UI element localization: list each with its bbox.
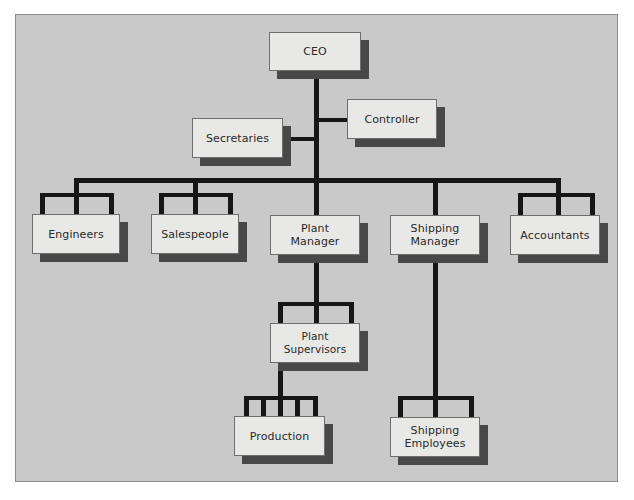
node-accountants: Accountants	[510, 215, 600, 255]
connector-controller	[314, 118, 348, 122]
prong	[518, 193, 523, 215]
prong	[40, 193, 45, 214]
stem-plant-supervisors	[314, 255, 319, 323]
stem-shipping-employees	[433, 255, 438, 417]
node-secretaries: Secretaries	[192, 118, 283, 158]
main-horizontal-bar	[74, 178, 561, 183]
prong	[469, 396, 474, 417]
fork-shipping-employees	[398, 396, 474, 400]
trunk-ceo	[314, 71, 319, 215]
prong	[159, 193, 164, 214]
prong	[228, 193, 233, 214]
prong	[244, 396, 249, 416]
fork-salespeople	[159, 193, 233, 197]
prong	[398, 396, 403, 417]
fork-engineers	[40, 193, 114, 197]
prong	[261, 396, 266, 416]
fork-production	[244, 396, 318, 400]
node-engineers: Engineers	[32, 214, 120, 254]
node-shipping-manager: Shipping Manager	[390, 215, 480, 255]
prong	[278, 302, 283, 323]
node-production: Production	[234, 416, 325, 456]
stem-shipping-manager	[433, 178, 438, 215]
node-plant-manager: Plant Manager	[270, 215, 360, 255]
prong	[313, 396, 318, 416]
node-shipping-employees: Shipping Employees	[390, 417, 480, 457]
node-ceo: CEO	[269, 32, 361, 71]
prong	[590, 193, 595, 215]
node-plant-supervisors: Plant Supervisors	[270, 323, 360, 363]
node-controller: Controller	[347, 99, 437, 139]
node-salespeople: Salespeople	[151, 214, 239, 254]
prong	[349, 302, 354, 323]
fork-plant-supervisors	[278, 302, 354, 306]
prong	[295, 396, 300, 416]
fork-accountants	[518, 193, 595, 197]
prong	[109, 193, 114, 214]
